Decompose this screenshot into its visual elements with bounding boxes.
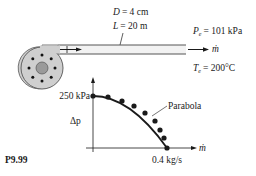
pump-curve-chart: ṁ Δp 250 kPa 0.4 kg/s Parabola <box>59 77 206 165</box>
parabola-label: Parabola <box>168 101 202 111</box>
pump-outlet-neck <box>40 46 60 54</box>
x-axis-arrow-icon <box>191 146 197 150</box>
exit-temperature-label: Te= 200°C <box>193 63 235 74</box>
x-intercept-label: 0.4 kg/s <box>152 155 182 165</box>
y-axis-label: Δp <box>70 116 81 126</box>
y-intercept-label: 250 kPa <box>59 91 91 101</box>
length-label: L= 20 m <box>112 21 148 31</box>
curve-data-points <box>90 93 169 150</box>
parabola-leader-line <box>152 106 167 116</box>
pump-pipe-diagram: D= 4 cm L= 20 m ṁ Pe= 101 kPa Te= 200°C … <box>0 0 256 176</box>
outlet-arrowhead-icon <box>203 47 209 51</box>
x-axis-label: ṁ <box>199 143 206 153</box>
problem-id-label: P9.99 <box>5 155 28 165</box>
pump-hub <box>36 62 48 74</box>
y-axis-arrow-icon <box>91 77 95 83</box>
length-leader-line <box>120 33 123 45</box>
diameter-label: D= 4 cm <box>112 7 149 17</box>
exit-pressure-label: Pe= 101 kPa <box>192 26 243 37</box>
outlet-mass-flow-label: ṁ <box>212 44 219 54</box>
